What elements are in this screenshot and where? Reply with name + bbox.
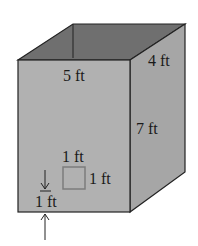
square-top-label: 1 ft xyxy=(62,148,84,165)
square-side-label: 1 ft xyxy=(89,170,111,187)
depth-label: 4 ft xyxy=(148,52,170,69)
width-label: 5 ft xyxy=(63,67,85,84)
height-label: 7 ft xyxy=(136,120,158,137)
offset-label: 1 ft xyxy=(35,193,57,210)
prism-diagram: 5 ft 4 ft 7 ft 1 ft 1 ft 1 ft xyxy=(0,0,198,246)
prism-svg: 5 ft 4 ft 7 ft 1 ft 1 ft 1 ft xyxy=(0,0,198,246)
